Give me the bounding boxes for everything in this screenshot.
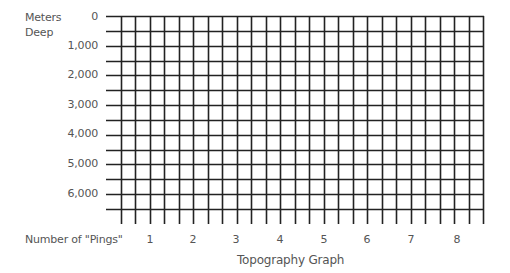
x-tick-2: 2 bbox=[183, 234, 203, 245]
y-tick-5000: 5,000 bbox=[38, 158, 98, 169]
x-tick-3: 3 bbox=[226, 234, 246, 245]
y-tick-0: 0 bbox=[38, 11, 98, 22]
y-tick-3000: 3,000 bbox=[38, 99, 98, 110]
x-tick-7: 7 bbox=[401, 234, 421, 245]
x-tick-5: 5 bbox=[314, 234, 334, 245]
y-tick-4000: 4,000 bbox=[38, 128, 98, 139]
y-tick-1000: 1,000 bbox=[38, 40, 98, 51]
y-tick-6000: 6,000 bbox=[38, 188, 98, 199]
x-tick-8: 8 bbox=[447, 234, 467, 245]
x-axis-label: Number of "Pings" bbox=[25, 234, 123, 245]
x-tick-1: 1 bbox=[140, 234, 160, 245]
x-tick-4: 4 bbox=[270, 234, 290, 245]
graph-title: Topography Graph bbox=[237, 254, 344, 266]
y-axis-label-deep: Deep bbox=[25, 27, 53, 38]
y-tick-2000: 2,000 bbox=[38, 69, 98, 80]
x-tick-6: 6 bbox=[357, 234, 377, 245]
